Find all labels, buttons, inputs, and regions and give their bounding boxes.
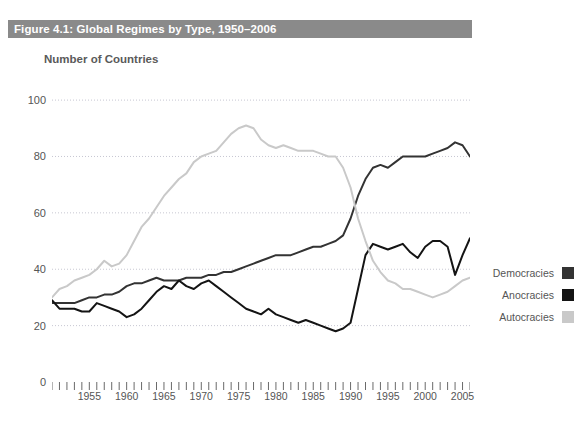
x-axis-tick-label: 1975 <box>227 390 250 402</box>
legend-item-label: Democracies <box>493 267 554 279</box>
y-axis-tick-label: 0 <box>40 376 46 388</box>
legend-swatch-democracies <box>562 267 574 279</box>
x-axis-tick-label: 2000 <box>414 390 437 402</box>
legend: DemocraciesAnocraciesAutocracies <box>478 262 574 328</box>
series-line-anocracies <box>52 238 470 331</box>
legend-item[interactable]: Anocracies <box>478 284 574 306</box>
x-axis-tick-label: 1970 <box>190 390 213 402</box>
legend-swatch-autocracies <box>562 311 574 323</box>
x-axis-tick-label: 1955 <box>78 390 101 402</box>
y-axis-tick-label: 60 <box>34 207 46 219</box>
x-axis-tick-label: 2005 <box>451 390 474 402</box>
series-line-democracies <box>52 142 470 303</box>
plot-area <box>52 86 470 382</box>
x-axis-tick-label: 1990 <box>339 390 362 402</box>
x-axis-tick-label: 1965 <box>152 390 175 402</box>
plot-svg <box>52 86 470 382</box>
x-axis-tick-label: 1960 <box>115 390 138 402</box>
legend-swatch-anocracies <box>562 289 574 301</box>
x-axis-tick-label: 1980 <box>264 390 287 402</box>
legend-item[interactable]: Autocracies <box>478 306 574 328</box>
legend-item-label: Autocracies <box>499 311 554 323</box>
x-axis-tick-label: 1995 <box>376 390 399 402</box>
x-axis-tick-labels: 1955196019651970197519801985199019952000… <box>52 390 470 406</box>
y-axis-tick-labels: 020406080100 <box>0 0 52 428</box>
figure-container: Figure 4.1: Global Regimes by Type, 1950… <box>0 0 576 428</box>
data-series <box>52 125 470 331</box>
legend-item[interactable]: Democracies <box>478 262 574 284</box>
y-axis-tick-label: 80 <box>34 150 46 162</box>
y-axis-title: Number of Countries <box>44 53 158 65</box>
y-axis-tick-label: 40 <box>34 263 46 275</box>
y-axis-tick-label: 20 <box>34 320 46 332</box>
figure-title-bar: Figure 4.1: Global Regimes by Type, 1950… <box>8 20 472 38</box>
y-axis-tick-label: 100 <box>28 94 46 106</box>
legend-item-label: Anocracies <box>502 289 554 301</box>
series-line-autocracies <box>52 125 470 297</box>
x-axis-tick-label: 1985 <box>302 390 325 402</box>
gridlines <box>52 100 470 326</box>
